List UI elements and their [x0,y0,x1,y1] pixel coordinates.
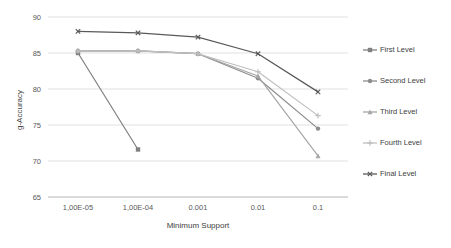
chart-legend: First LevelSecond LevelThird LevelFourth… [363,45,426,178]
data-point-marker [136,147,140,151]
legend-item-first-level[interactable]: First Level [363,45,415,54]
y-tick-label: 90 [33,13,41,22]
chart-container: 657075808590 1,00E-051,00E-040.0010.010.… [0,0,451,248]
data-point-marker [316,90,320,94]
legend-label: Fourth Level [380,138,422,147]
series-third-level [76,48,321,158]
legend-label: Final Level [380,169,417,178]
series-first-level [76,51,140,152]
legend-label: Third Level [380,107,417,116]
legend-marker-icon [368,48,372,52]
legend-item-third-level[interactable]: Third Level [363,107,417,116]
y-tick-label: 70 [33,157,41,166]
y-axis-title: g-Accuracy [15,90,24,130]
legend-label: First Level [380,45,415,54]
legend-marker-icon [367,140,373,146]
data-point-marker [316,126,320,130]
series-line [78,53,138,149]
x-tick-label: 0.01 [251,203,266,212]
y-tick-label: 65 [33,193,41,202]
y-tick-label: 85 [33,49,41,58]
legend-label: Second Level [380,76,426,85]
y-axis-tick-labels: 657075808590 [33,13,41,202]
x-axis-title: Minimum Support [167,221,230,230]
x-axis-tick-labels: 1,00E-051,00E-040.0010.010.1 [63,203,323,212]
legend-marker-icon [368,79,372,83]
data-series-group [75,29,321,158]
y-tick-label: 75 [33,121,41,130]
x-tick-label: 0.001 [189,203,208,212]
x-tick-label: 1,00E-04 [123,203,153,212]
series-line [78,51,318,116]
series-final-level [76,29,320,94]
series-line [78,31,318,91]
legend-item-final-level[interactable]: Final Level [363,169,417,178]
accuracy-vs-minimum-support-line-chart: 657075808590 1,00E-051,00E-040.0010.010.… [0,0,451,248]
x-tick-label: 0.1 [313,203,323,212]
gridlines-group [48,17,348,197]
series-line [78,51,318,156]
legend-item-fourth-level[interactable]: Fourth Level [363,138,422,147]
y-tick-label: 80 [33,85,41,94]
x-tick-label: 1,00E-05 [63,203,93,212]
legend-item-second-level[interactable]: Second Level [363,76,426,85]
